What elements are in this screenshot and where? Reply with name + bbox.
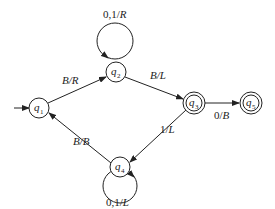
state-q3: q 3 [183,92,205,114]
label-q3-q4: 1/L [160,123,175,135]
transition-q3-q5: 0/B [205,103,239,121]
svg-text:2: 2 [117,72,121,80]
label-q4-q1: B/B [73,135,90,147]
label-q2-loop: 0,1/R [103,8,127,20]
transition-q2-loop: 0,1/R [97,8,133,59]
svg-text:1: 1 [40,108,44,116]
label-q2-q3: B/L [150,69,166,81]
label-q1-q2: B/R [62,74,79,86]
label-q3-q5: 0/B [214,109,230,121]
state-diagram: B/R 0,1/R B/L 0/B 1/L B/B 0,1/L q 1 q [0,0,275,209]
transition-q2-q3: B/L [125,69,183,99]
state-q4: q 4 [110,157,130,177]
transition-q3-q4: 1/L [130,110,186,162]
label-q4-loop: 0,1/L [106,196,129,208]
svg-text:4: 4 [121,167,125,175]
transition-q4-q1: B/B [49,113,111,163]
transition-q1-q2: B/R [48,74,106,103]
svg-text:5: 5 [252,103,256,111]
state-q1: q 1 [29,98,49,118]
svg-text:3: 3 [195,103,199,111]
state-q2: q 2 [106,62,126,82]
state-q5: q 5 [240,92,262,114]
